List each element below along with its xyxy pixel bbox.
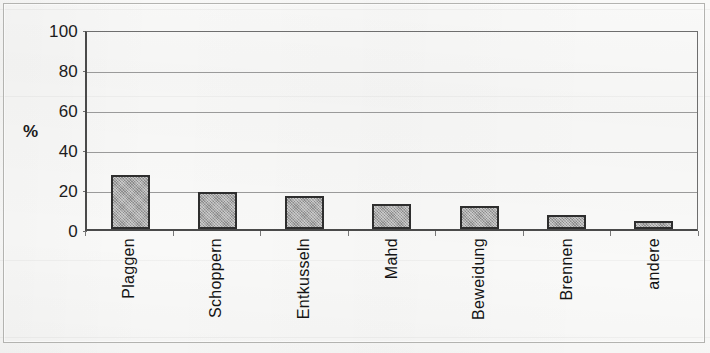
bar-slot-beweidung <box>436 32 523 229</box>
bar-slot-brennen <box>523 32 610 229</box>
y-tick-label-0: 0 <box>68 223 78 240</box>
y-tick-label-60: 60 <box>59 103 78 120</box>
x-axis-category-labels: Plaggen Schoppern Entkusseln Mahd Beweid… <box>85 238 698 343</box>
y-tick-label-20: 20 <box>59 183 78 200</box>
x-tick-3 <box>348 231 349 236</box>
x-tick-6 <box>610 231 611 236</box>
x-axis-ticks <box>85 231 698 237</box>
bar-plaggen <box>111 175 150 229</box>
bar-brennen <box>547 215 586 229</box>
category-label-entkusseln: Entkusseln <box>295 238 313 319</box>
category-label-andere: andere <box>645 238 663 290</box>
bar-slot-schoppern <box>174 32 261 229</box>
bar-slot-entkusseln <box>261 32 348 229</box>
category-label-brennen: Brennen <box>558 238 576 301</box>
category-label-beweidung: Beweidung <box>470 238 488 320</box>
y-axis-title: % <box>23 122 38 142</box>
y-tick-label-40: 40 <box>59 143 78 160</box>
y-tick-label-80: 80 <box>59 63 78 80</box>
category-label-mahd: Mahd <box>383 238 401 279</box>
plot-area <box>85 31 698 231</box>
bar-slot-mahd <box>348 32 435 229</box>
x-tick-4 <box>435 231 436 236</box>
category-label-schoppern: Schoppern <box>207 238 225 318</box>
bars-layer <box>87 32 697 229</box>
x-tick-1 <box>173 231 174 236</box>
bar-andere <box>634 221 673 229</box>
bar-beweidung <box>460 206 499 229</box>
x-tick-2 <box>260 231 261 236</box>
x-tick-5 <box>523 231 524 236</box>
bar-mahd <box>372 204 411 229</box>
bar-slot-plaggen <box>87 32 174 229</box>
bar-schoppern <box>198 192 237 229</box>
x-tick-7 <box>698 231 699 236</box>
y-tick-label-100: 100 <box>49 23 78 40</box>
bar-entkusseln <box>285 196 324 229</box>
category-label-plaggen: Plaggen <box>120 238 138 299</box>
chart-screenshot: 100 80 60 40 20 0 % Plaggen Schoppern E <box>0 0 710 353</box>
x-tick-0 <box>85 231 86 236</box>
bar-slot-andere <box>610 32 697 229</box>
